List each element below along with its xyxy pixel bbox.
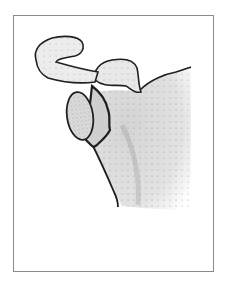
acromion: [35, 36, 98, 82]
scapula-illustration: [0, 0, 226, 283]
scapula-body: [93, 67, 191, 210]
coracoid-process: [95, 59, 141, 92]
